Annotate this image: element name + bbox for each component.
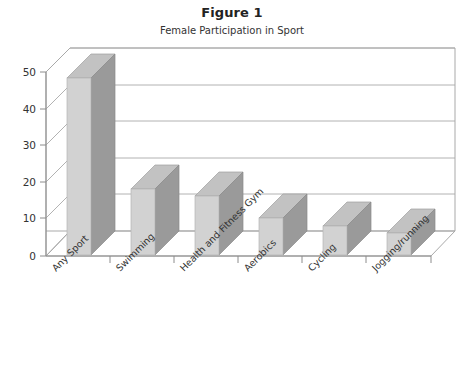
y-tick-labels: 50 40 30 20 10 0 [23,66,36,262]
chart-figure: Figure 1 Female Participation in Sport [0,0,464,375]
y-tick-label: 30 [23,139,36,151]
bar-any-sport [67,54,115,255]
y-axis [40,72,46,256]
y-tick-label: 50 [23,66,36,78]
y-tick-label: 40 [23,103,36,115]
y-tick-label: 10 [23,212,36,224]
y-tick-label: 20 [23,176,36,188]
y-tick-label: 0 [29,250,36,262]
x-category-label: Cycling [306,241,338,273]
bar-chart-svg: 50 40 30 20 10 0 [0,0,464,375]
